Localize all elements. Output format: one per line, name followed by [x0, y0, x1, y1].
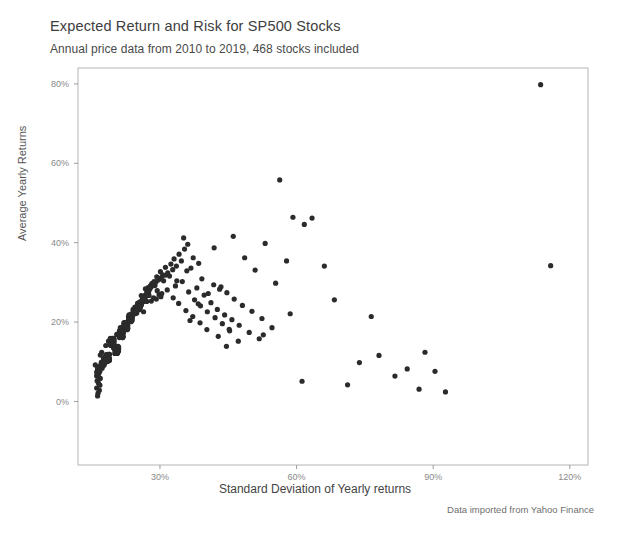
- datapoint: [247, 330, 252, 335]
- datapoint: [199, 276, 204, 281]
- datapoint: [151, 281, 156, 286]
- datapoint: [129, 318, 134, 323]
- datapoint: [95, 366, 100, 371]
- y-tick-label: 40%: [51, 238, 69, 248]
- datapoint: [194, 285, 199, 290]
- datapoint: [257, 336, 262, 341]
- datapoint: [277, 177, 282, 182]
- datapoint: [232, 296, 237, 301]
- datapoint: [180, 279, 185, 284]
- datapoint: [174, 278, 179, 283]
- datapoint: [538, 82, 543, 87]
- datapoint: [218, 284, 223, 289]
- datapoint: [188, 265, 193, 270]
- datapoint: [242, 255, 247, 260]
- datapoint: [284, 258, 289, 263]
- datapoint: [183, 308, 188, 313]
- datapoint: [548, 263, 553, 268]
- datapoint: [229, 317, 234, 322]
- datapoint: [224, 344, 229, 349]
- datapoint: [263, 241, 268, 246]
- datapoint: [249, 309, 254, 314]
- datapoint: [115, 349, 120, 354]
- datapoint: [211, 282, 216, 287]
- datapoint: [376, 353, 381, 358]
- datapoint: [220, 321, 225, 326]
- datapoint: [196, 301, 201, 306]
- chart-figure: Expected Return and Risk for SP500 Stock…: [0, 0, 630, 545]
- datapoint: [197, 320, 202, 325]
- datapoint: [108, 337, 113, 342]
- datapoint: [168, 262, 173, 267]
- datapoint: [182, 246, 187, 251]
- datapoint: [216, 334, 221, 339]
- datapoint: [212, 245, 217, 250]
- datapoint: [167, 273, 172, 278]
- datapoint: [196, 261, 201, 266]
- datapoint: [131, 311, 136, 316]
- datapoint: [302, 222, 307, 227]
- datapoint: [345, 382, 350, 387]
- datapoint: [202, 292, 207, 297]
- datapoint: [273, 281, 278, 286]
- datapoint: [259, 316, 264, 321]
- datapoint: [322, 264, 327, 269]
- datapoint: [138, 305, 143, 310]
- x-tick-label: 120%: [558, 472, 581, 482]
- x-tick-label: 60%: [288, 472, 306, 482]
- datapoint: [261, 332, 266, 337]
- datapoint: [309, 215, 314, 220]
- datapoint: [253, 267, 258, 272]
- datapoint: [212, 315, 217, 320]
- datapoint: [161, 278, 166, 283]
- x-tick-label: 30%: [151, 472, 169, 482]
- y-tick-label: 20%: [51, 317, 69, 327]
- datapoint: [204, 327, 209, 332]
- datapoint: [162, 273, 167, 278]
- datapoint: [117, 333, 122, 338]
- datapoint: [269, 325, 274, 330]
- datapoint: [222, 312, 227, 317]
- datapoint: [101, 361, 106, 366]
- datapoint: [176, 301, 181, 306]
- datapoint: [106, 356, 111, 361]
- datapoint: [187, 318, 192, 323]
- datapoint: [141, 309, 146, 314]
- datapoint: [405, 366, 410, 371]
- datapoint: [357, 360, 362, 365]
- datapoint: [290, 215, 295, 220]
- datapoint: [443, 389, 448, 394]
- plot-panel-border: [78, 68, 588, 465]
- datapoint: [173, 283, 178, 288]
- datapoint: [95, 393, 100, 398]
- datapoint: [369, 314, 374, 319]
- datapoint: [171, 295, 176, 300]
- y-tick-label: 0%: [56, 397, 69, 407]
- y-tick-label: 80%: [51, 79, 69, 89]
- datapoint: [237, 323, 242, 328]
- datapoint: [416, 387, 421, 392]
- datapoint: [185, 242, 190, 247]
- datapoint: [231, 234, 236, 239]
- datapoint: [122, 321, 127, 326]
- datapoint: [191, 255, 196, 260]
- datapoint: [125, 327, 130, 332]
- datapoint: [171, 256, 176, 261]
- datapoint: [179, 258, 184, 263]
- source-caption: Data imported from Yahoo Finance: [447, 504, 594, 515]
- datapoint: [240, 303, 245, 308]
- datapoint: [156, 277, 161, 282]
- datapoint: [224, 290, 229, 295]
- x-axis-title: Standard Deviation of Yearly returns: [0, 482, 630, 496]
- datapoint: [392, 373, 397, 378]
- datapoint: [147, 286, 152, 291]
- datapoint: [146, 293, 151, 298]
- datapoint: [103, 343, 108, 348]
- datapoint: [110, 341, 115, 346]
- datapoint: [176, 252, 181, 257]
- datapoint: [181, 235, 186, 240]
- datapoint: [163, 265, 168, 270]
- datapoint: [192, 297, 197, 302]
- datapoint: [288, 311, 293, 316]
- datapoint: [236, 339, 241, 344]
